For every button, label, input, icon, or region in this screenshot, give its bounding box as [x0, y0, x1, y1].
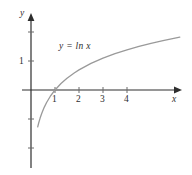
y-tick-label-1: 1 [19, 57, 24, 67]
plot-canvas [0, 0, 192, 175]
x-tick-label-1: 1 [52, 95, 57, 105]
x-tick-label-4: 4 [124, 95, 129, 105]
y-axis-label: y [20, 9, 24, 19]
ln-function-graph: 1 2 3 4 1 x y y = ln x [0, 0, 192, 175]
x-axis [22, 87, 182, 94]
x-tick-label-2: 2 [76, 95, 81, 105]
x-tick-label-3: 3 [100, 95, 105, 105]
equation-label: y = ln x [59, 42, 91, 52]
x-axis-label: x [172, 95, 176, 105]
